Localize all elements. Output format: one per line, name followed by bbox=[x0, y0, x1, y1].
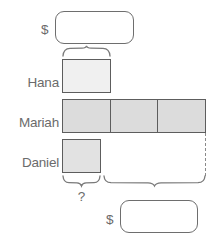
tape-diagram: $ Hana Mariah Daniel ? $ bbox=[0, 0, 218, 238]
bottom-total-dollar-sign: $ bbox=[106, 213, 114, 227]
mariah-right-edge-dashed-line bbox=[205, 133, 206, 176]
top-total-input-box[interactable] bbox=[55, 11, 134, 44]
row-label-hana: Hana bbox=[0, 76, 59, 90]
row-label-daniel: Daniel bbox=[0, 156, 59, 170]
bar-daniel-segment-1 bbox=[63, 140, 100, 172]
row-label-mariah: Mariah bbox=[0, 116, 59, 130]
bar-mariah-segment-1 bbox=[63, 100, 111, 132]
bar-mariah-segment-2 bbox=[111, 100, 159, 132]
bottom-total-input-box[interactable] bbox=[120, 200, 198, 233]
top-total-dollar-sign: $ bbox=[41, 23, 49, 37]
bar-daniel bbox=[62, 139, 101, 173]
bar-hana-segment-1 bbox=[63, 60, 110, 92]
daniel-unknown-brace bbox=[62, 175, 101, 187]
bar-mariah-segment-3 bbox=[158, 100, 205, 132]
bar-mariah bbox=[62, 99, 206, 133]
hana-unit-brace bbox=[62, 45, 111, 57]
mariah-remainder-brace bbox=[103, 175, 206, 187]
bar-hana bbox=[62, 59, 111, 93]
unknown-marker: ? bbox=[62, 190, 101, 204]
